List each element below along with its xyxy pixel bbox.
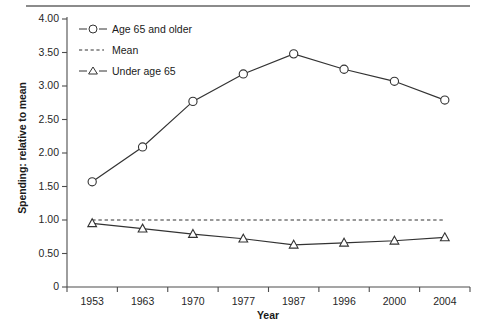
data-point-marker [340,65,348,73]
x-axis-tick-label: 1970 [167,295,219,307]
x-axis-tick-label: 1953 [66,295,118,307]
y-axis-tick-label: 2.50 [13,113,59,125]
data-point-marker [390,77,398,85]
legend-label: Under age 65 [112,65,176,77]
legend-item-under-age-65: Under age 65 [78,62,238,79]
legend-item-age-65-and-older: Age 65 and older [78,20,238,37]
page-top-rule [26,5,470,7]
y-axis-tick-label: 3.00 [13,79,59,91]
y-axis-tick-label: 3.50 [13,46,59,58]
data-point-marker [189,97,197,105]
x-axis-tick-label: 1963 [117,295,169,307]
x-axis-tick-label: 2000 [368,295,420,307]
y-axis-tick-label: 1.00 [13,213,59,225]
legend-label: Age 65 and older [112,23,192,35]
data-point-marker [290,50,298,58]
legend-item-mean: Mean [78,41,238,58]
data-point-marker [440,233,449,241]
dashed-line-marker-icon [78,43,108,57]
x-axis-tick-label: 1987 [268,295,320,307]
y-axis-tick-label: 4.00 [13,12,59,24]
chart-plot-area [0,0,483,332]
chart-figure: Spending: relative to mean Year 00.501.0… [0,0,483,332]
y-axis-tick-label: 2.00 [13,146,59,158]
x-axis-title: Year [60,309,476,321]
x-axis-tick-label: 2004 [419,295,471,307]
data-point-marker [441,96,449,104]
y-axis-tick-label: 0 [13,280,59,292]
y-axis-tick-label: 1.50 [13,180,59,192]
data-point-marker [239,70,247,78]
data-point-marker [88,178,96,186]
x-axis-tick-label: 1977 [217,295,269,307]
y-axis-tick-label: 0.50 [13,247,59,259]
data-point-marker [138,143,146,151]
circle-marker-icon [78,22,108,36]
triangle-marker-icon [78,64,108,78]
x-axis-tick-label: 1996 [318,295,370,307]
chart-legend: Age 65 and older Mean Under age 65 [78,20,238,83]
legend-label: Mean [112,44,138,56]
